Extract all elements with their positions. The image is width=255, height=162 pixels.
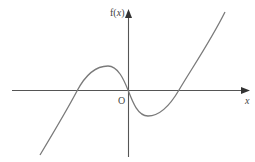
origin-label: O <box>118 95 125 106</box>
y-axis-arrow-icon <box>125 9 132 18</box>
cubic-curve <box>40 12 225 155</box>
x-axis-label: x <box>244 95 250 106</box>
x-axis-arrow-icon <box>241 87 250 94</box>
function-graph: f(x) x O <box>0 0 255 162</box>
y-axis-label: f(x) <box>110 7 124 19</box>
